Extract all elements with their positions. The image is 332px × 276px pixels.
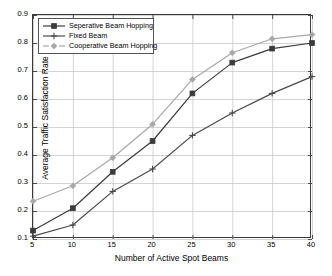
- x-tick-label: 35: [259, 241, 283, 249]
- y-tick-label: 0.6: [2, 94, 28, 102]
- legend-marker-diamond-icon: [42, 41, 66, 51]
- y-tick-label: 0.2: [2, 206, 28, 214]
- y-tick-label: 0.7: [2, 66, 28, 74]
- y-tick-label: 0.8: [2, 38, 28, 46]
- y-tick-label: 0.5: [2, 122, 28, 130]
- legend-item: Seperative Beam Hopping: [42, 21, 150, 31]
- legend-label: Cooperative Beam Hopping: [69, 42, 157, 50]
- x-tick-label: 30: [219, 241, 243, 249]
- x-tick-label: 40: [299, 241, 323, 249]
- legend-label: Seperative Beam Hopping: [69, 22, 153, 30]
- y-tick-label: 0.9: [2, 10, 28, 18]
- legend-marker-square-icon: [42, 21, 66, 31]
- legend-item: Fixed Beam: [42, 31, 150, 41]
- x-tick-label: 25: [179, 241, 203, 249]
- y-tick-label: 0.4: [2, 150, 28, 158]
- x-tick-label: 5: [20, 241, 44, 249]
- legend-marker-plus-icon: [42, 31, 66, 41]
- x-tick-label: 15: [100, 241, 124, 249]
- chart-legend: Seperative Beam Hopping Fixed Beam Coope…: [38, 18, 154, 54]
- x-tick-label: 10: [60, 241, 84, 249]
- x-tick-label: 20: [140, 241, 164, 249]
- y-tick-label: 0.3: [2, 178, 28, 186]
- legend-item: Cooperative Beam Hopping: [42, 41, 150, 51]
- x-axis-title: Number of Active Spot Beams: [32, 253, 311, 263]
- legend-label: Fixed Beam: [69, 32, 107, 40]
- chart-figure: 0.10.20.30.40.50.60.70.80.9 510152025303…: [0, 0, 332, 276]
